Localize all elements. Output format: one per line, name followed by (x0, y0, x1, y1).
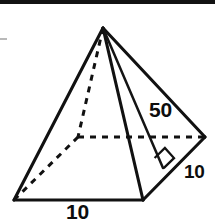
hidden-edge-apex-to-back (78, 28, 103, 137)
pyramid-figure: 50 10 10 (0, 0, 215, 220)
edge-apex-to-front-right (103, 28, 143, 200)
pyramid-drawing (0, 0, 215, 220)
edge-apex-to-front-left (14, 28, 103, 200)
label-slant-height: 50 (149, 99, 172, 120)
hidden-edge-front-left-to-back (14, 137, 78, 200)
label-base-edge-front: 10 (66, 201, 89, 220)
label-base-edge-right: 10 (184, 162, 205, 181)
